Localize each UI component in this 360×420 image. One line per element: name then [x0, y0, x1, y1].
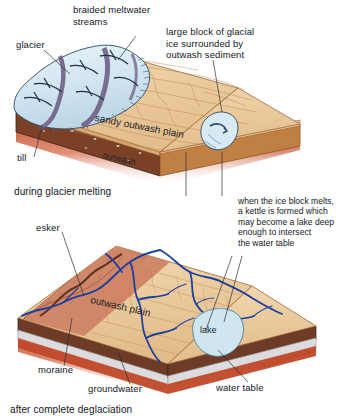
caption-after-complete-deglaciation: after complete deglaciation — [10, 404, 132, 416]
caption-during-glacier-melting: during glacier melting — [14, 186, 111, 198]
label-glacier: glacier — [16, 39, 45, 51]
label-till: till — [17, 152, 26, 164]
label-esker: esker — [36, 222, 60, 234]
diagram-stage: braided meltwater streams glacier till l… — [0, 0, 360, 420]
label-moraine: moraine — [38, 364, 73, 376]
note-kettle-explanation: when the ice block melts, a kettle is fo… — [238, 196, 334, 248]
label-groundwater: groundwater — [88, 383, 142, 395]
label-braided-meltwater-streams: braided meltwater streams — [73, 4, 150, 27]
label-large-ice-block: large block of glacial ice surrounded by… — [166, 26, 254, 61]
label-lake: lake — [200, 325, 217, 335]
label-water-table: water table — [216, 382, 264, 394]
upper-block-diagram — [14, 36, 300, 196]
